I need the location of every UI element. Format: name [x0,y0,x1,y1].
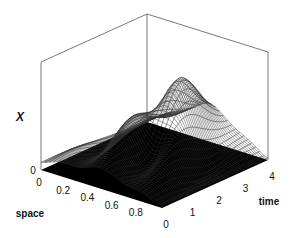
surface-plot: 00.20.40.60.8 01234 0 space time X [0,0,294,238]
time-tick-label: 3 [243,183,249,194]
space-axis-label: space [16,208,45,219]
space-tick-label: 0.8 [129,207,143,218]
time-tick-label: 4 [269,171,275,182]
space-tick-label: 0.2 [56,185,70,196]
space-tick-label: 0 [36,177,42,188]
z-tick-0: 0 [30,165,36,176]
left-wall-top [41,14,147,62]
right-wall-top [147,14,268,52]
time-tick-label: 2 [216,195,222,206]
time-tick-label: 1 [190,207,196,218]
space-tick-label: 0.4 [80,192,94,203]
time-axis-label: time [259,196,280,207]
space-tick-label: 0.6 [105,200,119,211]
time-tick-label: 0 [163,219,169,230]
x-axis-label: X [15,110,25,124]
